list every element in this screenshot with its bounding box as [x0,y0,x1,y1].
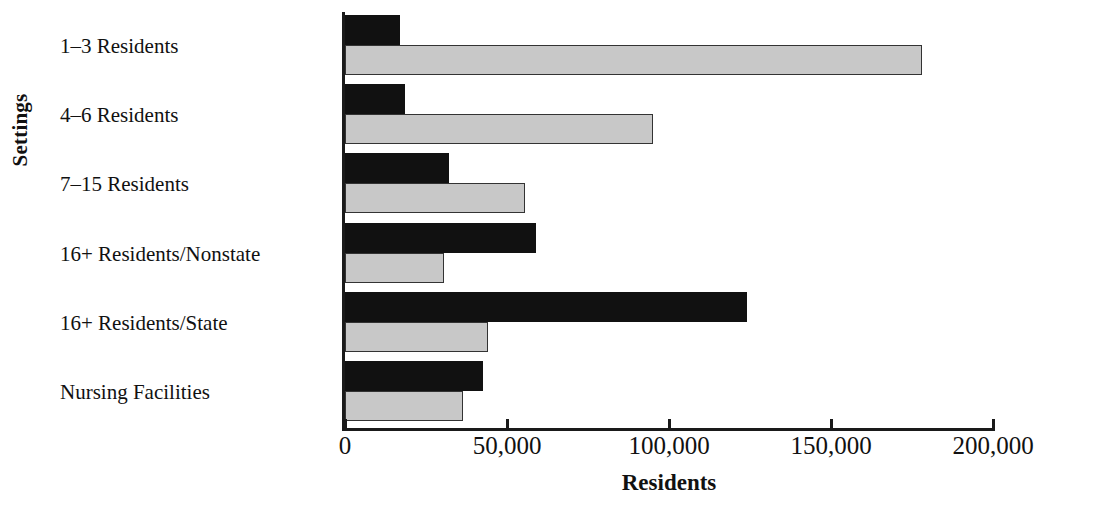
bar-series-dark-0 [345,15,400,45]
bar-series-light-3 [345,253,444,283]
x-tick-mark-2 [668,419,671,431]
x-tick-mark-4 [992,419,995,431]
y-axis-title: Settings [0,40,40,220]
bar-series-dark-3 [345,223,536,253]
x-tick-mark-1 [506,419,509,431]
plot-area [345,12,993,428]
x-axis-title: Residents [345,470,993,496]
horizontal-bar-chart: Settings 1–3 Residents4–6 Residents7–15 … [0,0,1100,528]
x-tick-label-3: 150,000 [790,432,871,460]
category-label-0: 1–3 Residents [60,35,332,59]
category-label-4: 16+ Residents/State [60,312,332,336]
category-label-1: 4–6 Residents [60,104,332,128]
category-label-2: 7–15 Residents [60,173,332,197]
bar-series-light-5 [345,391,463,421]
x-tick-label-0: 0 [339,432,352,460]
y-axis-category-labels: 1–3 Residents4–6 Residents7–15 Residents… [60,12,332,428]
x-tick-label-2: 100,000 [628,432,709,460]
bar-series-dark-2 [345,153,449,183]
x-tick-mark-3 [830,419,833,431]
bar-series-dark-4 [345,292,747,322]
bar-series-light-4 [345,322,488,352]
x-axis-tick-labels: 050,000100,000150,000200,000 [345,432,1025,466]
category-label-3: 16+ Residents/Nonstate [60,243,332,267]
x-tick-label-4: 200,000 [952,432,1033,460]
bar-series-dark-1 [345,84,405,114]
bar-series-dark-5 [345,361,483,391]
bar-series-light-1 [345,114,653,144]
x-tick-label-1: 50,000 [473,432,542,460]
category-label-5: Nursing Facilities [60,381,332,405]
bar-series-light-0 [345,45,922,75]
bar-series-light-2 [345,183,525,213]
x-tick-mark-0 [344,419,347,431]
